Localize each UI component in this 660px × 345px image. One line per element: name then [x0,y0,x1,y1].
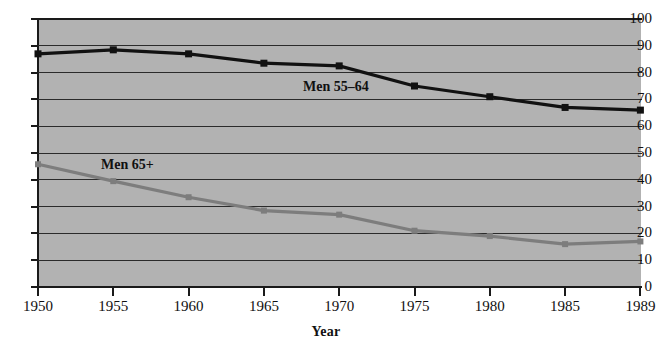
y-tick-mark [31,98,38,100]
y-tick-label: 0 [620,279,652,294]
gridline [38,126,642,127]
y-tick-label: 70 [620,91,652,106]
y-tick-label: 40 [620,172,652,187]
y-tick-mark [31,125,38,127]
x-tick-label: 1985 [530,299,600,314]
y-tick-mark [31,72,38,74]
y-tick-mark [31,259,38,261]
y-tick-label: 20 [620,225,652,240]
y-tick-mark [31,206,38,208]
x-tick-mark [263,288,265,296]
y-tick-label: 100 [620,11,652,26]
x-tick-mark [112,288,114,296]
x-tick-mark [188,288,190,296]
y-tick-label: 50 [620,145,652,160]
gridline [38,99,642,100]
x-tick-label: 1955 [78,299,148,314]
x-tick-label: 1989 [605,299,660,314]
x-tick-label: 1965 [229,299,299,314]
y-tick-label: 80 [620,65,652,80]
gridline [38,72,642,73]
x-tick-label: 1960 [154,299,224,314]
y-tick-mark [31,18,38,20]
gridline [38,206,642,207]
x-tick-label: 1980 [455,299,525,314]
x-tick-label: 1970 [304,299,374,314]
y-tick-label: 10 [620,252,652,267]
x-tick-mark [37,288,39,296]
gridline [38,233,642,234]
y-tick-mark [31,179,38,181]
y-tick-label: 60 [620,118,652,133]
y-tick-label: 30 [620,199,652,214]
x-tick-label: 1975 [380,299,450,314]
x-tick-mark [564,288,566,296]
y-tick-label: 90 [620,38,652,53]
x-tick-mark [338,288,340,296]
gridline [38,179,642,180]
y-tick-mark [31,152,38,154]
x-tick-mark [414,288,416,296]
x-tick-mark [489,288,491,296]
x-tick-label: 1950 [3,299,73,314]
series-label-men-65-plus: Men 65+ [101,157,154,173]
gridline [38,45,642,46]
x-axis-title: Year [0,324,652,340]
y-tick-mark [31,45,38,47]
y-tick-mark [31,232,38,234]
x-tick-mark [639,288,641,296]
plot-top-border [38,18,642,20]
gridline [38,153,642,154]
gridline [38,260,642,261]
series-label-men-55-64: Men 55–64 [303,79,369,95]
